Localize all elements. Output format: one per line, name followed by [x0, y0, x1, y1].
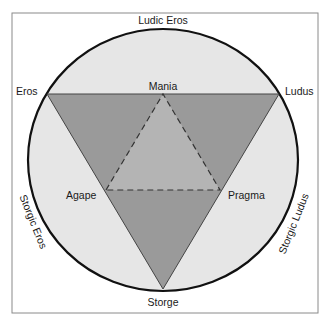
love-styles-diagram: Ludic Eros Eros Ludus Mania Agape Pragma… [0, 0, 327, 319]
label-eros: Eros [16, 85, 38, 97]
label-agape: Agape [66, 189, 97, 201]
label-pragma: Pragma [228, 189, 265, 201]
label-ludus: Ludus [285, 85, 314, 97]
label-ludic-eros: Ludic Eros [138, 14, 188, 26]
label-mania: Mania [149, 80, 178, 92]
label-storge: Storge [148, 296, 179, 308]
